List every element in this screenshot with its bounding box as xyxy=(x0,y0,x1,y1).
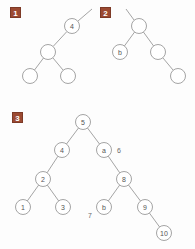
tree-node-9: 9 xyxy=(138,200,153,215)
tree-edge xyxy=(67,128,79,144)
tree-node-b: b xyxy=(97,200,112,215)
tree-edge xyxy=(47,156,58,172)
tree-node-a: a xyxy=(97,143,112,158)
node-label: 9 xyxy=(143,204,147,211)
tree-node-8: 8 xyxy=(117,172,132,187)
tree-edge xyxy=(149,213,159,227)
tree-node-2: 2 xyxy=(36,172,51,187)
tree-figure: 142b354a2813b91067 xyxy=(0,0,195,249)
tree-graph-3: 54a2813b91067 xyxy=(0,0,195,249)
tree-node-4: 4 xyxy=(55,143,70,158)
side-label-7: 7 xyxy=(88,212,92,219)
node-label: 8 xyxy=(122,176,126,183)
tree-edge xyxy=(88,128,100,144)
tree-node-5: 5 xyxy=(76,115,91,130)
node-label: b xyxy=(102,204,106,211)
tree-node-1: 1 xyxy=(16,200,31,215)
tree-edge xyxy=(27,185,38,201)
side-label-6: 6 xyxy=(117,147,121,154)
node-label: 10 xyxy=(160,230,168,237)
node-label: 4 xyxy=(60,147,64,154)
node-label: 3 xyxy=(61,204,65,211)
tree-edge xyxy=(108,156,119,173)
tree-node-10: 10 xyxy=(157,226,172,241)
node-label: 1 xyxy=(21,204,25,211)
tree-edge xyxy=(108,185,119,201)
tree-edge xyxy=(47,185,58,201)
node-label: 2 xyxy=(41,176,45,183)
node-label: 5 xyxy=(81,119,85,126)
panel-3: 354a2813b91067 xyxy=(0,0,195,249)
node-label: a xyxy=(102,147,106,154)
tree-edge xyxy=(129,185,141,201)
tree-node-3: 3 xyxy=(56,200,71,215)
